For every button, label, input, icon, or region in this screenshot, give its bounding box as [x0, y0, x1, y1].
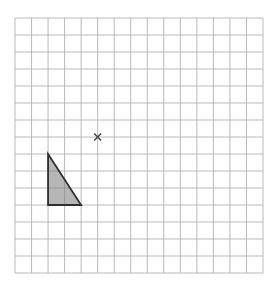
grid-svg: [0, 0, 279, 292]
grid-lines: [15, 18, 263, 273]
worksheet-figure: [0, 0, 279, 292]
